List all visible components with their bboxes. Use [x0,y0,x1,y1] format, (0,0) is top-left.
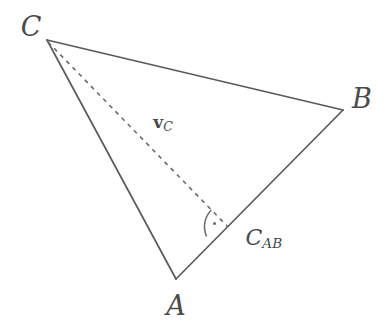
altitude-vector-name: v [153,112,163,132]
side-ca [47,40,176,279]
foot-label-subscript: AB [262,235,282,251]
altitude-vector-label: vC [153,114,173,134]
side-ab [176,110,343,279]
right-angle-arc [204,210,211,237]
geometry-figure: C B A CAB vC [0,0,392,327]
side-cb [47,40,343,110]
altitude-vector-subscript: C [163,119,173,134]
figure-canvas [0,0,392,327]
vertex-label-a: A [166,292,186,319]
vertex-label-c: C [21,13,42,40]
foot-label-cab: CAB [245,227,282,251]
right-angle-dot [213,222,216,225]
altitude-vc-dashed-line [48,42,228,227]
vertex-label-b: B [352,85,372,112]
foot-label-base: C [245,225,262,250]
